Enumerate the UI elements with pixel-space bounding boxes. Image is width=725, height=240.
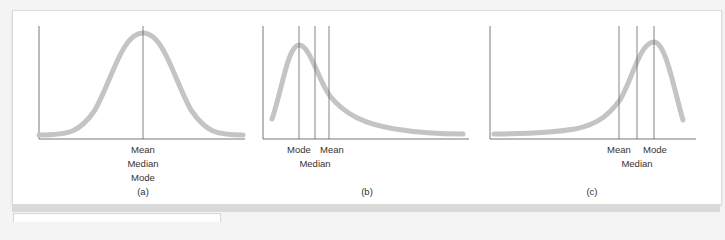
- label-mode: Mode: [283, 143, 315, 157]
- skewed-curve: [494, 42, 683, 134]
- label-mean: Mean: [123, 143, 163, 157]
- caption-a: (a): [123, 185, 163, 199]
- skewed-curve: [272, 45, 463, 134]
- label-mode: Mode: [639, 143, 671, 157]
- panel-b-positive-skew: [263, 26, 469, 139]
- label-mode: Mode: [123, 171, 163, 185]
- panel-c-negative-skew: [490, 26, 696, 139]
- label-mean: Mean: [317, 143, 347, 157]
- panel-a-symmetric: [39, 26, 245, 139]
- label-median: Median: [617, 157, 657, 171]
- caption-c: (c): [577, 185, 607, 199]
- normal-curve: [39, 33, 243, 135]
- label-median: Median: [295, 157, 335, 171]
- label-mean: Mean: [604, 143, 634, 157]
- label-median: Median: [123, 157, 163, 171]
- caption-b: (b): [352, 185, 382, 199]
